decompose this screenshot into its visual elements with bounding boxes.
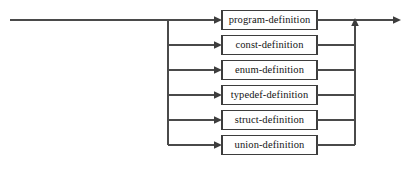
production-label-4: struct-definition <box>235 114 305 125</box>
alternative-row-program-definition: program-definition <box>168 11 355 30</box>
production-label-1: const-definition <box>235 39 304 50</box>
arrow-into-box-4 <box>214 116 222 124</box>
arrow-into-box-0 <box>214 16 222 24</box>
production-label-5: union-definition <box>235 139 305 150</box>
alternative-row-typedef-definition: typedef-definition <box>168 86 355 105</box>
production-label-2: enum-definition <box>235 64 305 75</box>
arrow-exit <box>393 16 401 24</box>
alternative-row-struct-definition: struct-definition <box>168 111 355 130</box>
production-label-0: program-definition <box>229 14 311 25</box>
arrow-into-box-5 <box>214 141 222 149</box>
arrow-merge-up <box>351 18 359 26</box>
alternative-row-enum-definition: enum-definition <box>168 61 355 80</box>
railroad-diagram-canvas: program-definition const-definition enum… <box>0 0 411 192</box>
alternative-row-const-definition: const-definition <box>168 36 355 55</box>
arrow-into-box-1 <box>214 41 222 49</box>
arrow-into-box-3 <box>214 91 222 99</box>
railroad-diagram: program-definition const-definition enum… <box>0 0 411 192</box>
arrow-into-box-2 <box>214 66 222 74</box>
alternative-row-union-definition: union-definition <box>168 136 355 155</box>
production-label-3: typedef-definition <box>231 89 309 100</box>
